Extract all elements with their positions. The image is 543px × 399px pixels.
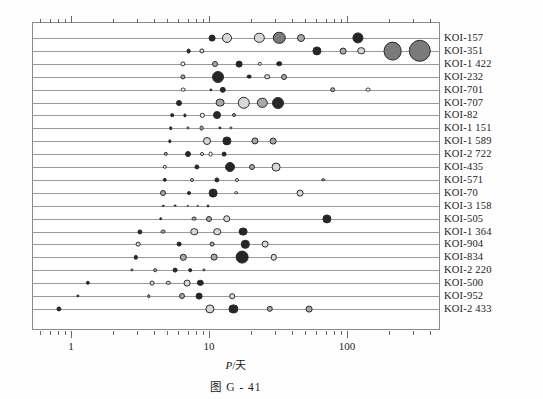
x-tick-minor-top [188, 19, 189, 23]
system-label: KOI-3 158 [444, 199, 492, 210]
planet-marker [229, 304, 238, 313]
planet-marker [238, 96, 250, 108]
x-tick-minor-top [50, 19, 51, 23]
system-row-line [33, 270, 439, 271]
planet-marker [164, 152, 168, 156]
system-label: KOI-70 [444, 186, 478, 197]
x-tick-minor-top [326, 19, 327, 23]
planet-marker [203, 137, 211, 145]
planet-marker [273, 32, 285, 44]
x-tick-label: 100 [339, 340, 356, 352]
plot-frame [32, 22, 440, 330]
planet-marker [177, 242, 182, 247]
system-label: KOI-707 [444, 96, 483, 107]
planet-marker [236, 60, 243, 67]
x-tick-minor [305, 331, 306, 335]
x-tick-minor-top [113, 19, 114, 23]
x-tick-major-top [209, 16, 210, 23]
planet-marker [185, 151, 191, 157]
system-label: KOI-1 589 [444, 135, 492, 146]
system-label: KOI-82 [444, 109, 478, 120]
planet-marker [221, 152, 226, 157]
planet-marker [181, 87, 186, 92]
planet-marker [86, 281, 90, 285]
system-label: KOI-500 [444, 277, 483, 288]
x-tick-major [347, 331, 348, 338]
x-tick-minor [58, 331, 59, 335]
x-tick-minor [178, 331, 179, 335]
system-label: KOI-505 [444, 212, 483, 223]
planet-marker [189, 268, 193, 272]
planet-marker [213, 111, 221, 119]
planet-marker [183, 280, 190, 287]
planet-marker [173, 268, 178, 273]
planet-marker [153, 268, 157, 272]
planet-marker [321, 178, 325, 182]
x-tick-minor [40, 331, 41, 335]
x-tick-minor-top [251, 19, 252, 23]
planet-marker [222, 33, 232, 43]
planet-marker [181, 74, 186, 79]
planet-marker [262, 241, 269, 248]
planet-marker [270, 138, 277, 145]
system-label: KOI-351 [444, 44, 483, 55]
planet-marker [161, 229, 166, 234]
system-label: KOI-904 [444, 238, 483, 249]
x-tick-minor [292, 331, 293, 335]
x-tick-minor-top [196, 19, 197, 23]
system-label: KOI-2 433 [444, 302, 492, 313]
planet-marker [163, 178, 167, 182]
planet-marker [210, 88, 213, 91]
x-tick-label: 10 [204, 340, 215, 352]
x-tick-minor-top [292, 19, 293, 23]
x-tick-minor [251, 331, 252, 335]
planet-marker [187, 191, 191, 195]
x-tick-minor-top [334, 19, 335, 23]
planet-marker [137, 229, 142, 234]
figure-container: KOI-157KOI-351KOI-1 422KOI-232KOI-701KOI… [0, 0, 543, 399]
planet-marker [235, 178, 239, 182]
system-row-line [33, 219, 439, 220]
planet-marker [218, 127, 221, 130]
planet-marker [241, 240, 249, 248]
planet-marker [135, 242, 140, 247]
planet-marker [190, 178, 194, 182]
x-tick-minor-top [167, 19, 168, 23]
system-label: KOI-232 [444, 70, 483, 81]
planet-marker [214, 177, 219, 182]
system-row-line [33, 283, 439, 284]
planet-marker [264, 74, 270, 80]
planet-marker [181, 61, 186, 66]
planet-marker [214, 228, 222, 236]
planet-marker [277, 61, 283, 67]
planet-marker [305, 305, 312, 312]
figure-caption: 图 G - 41 [0, 378, 472, 394]
x-tick-major [71, 331, 72, 338]
planet-marker [239, 227, 248, 236]
planet-marker [200, 113, 204, 117]
x-tick-minor-top [275, 19, 276, 23]
planet-marker [312, 46, 321, 55]
planet-marker [235, 251, 248, 264]
planet-marker [251, 138, 258, 145]
system-row-line [33, 296, 439, 297]
system-label: KOI-701 [444, 83, 483, 94]
planet-marker [222, 137, 231, 146]
x-tick-minor [113, 331, 114, 335]
x-tick-minor-top [137, 19, 138, 23]
planet-marker [150, 281, 155, 286]
planet-marker [200, 152, 204, 156]
x-tick-minor [167, 331, 168, 335]
planet-marker [383, 41, 402, 60]
x-tick-minor [65, 331, 66, 335]
planet-marker [192, 216, 197, 221]
system-row-line [33, 232, 439, 233]
planet-marker [229, 293, 235, 299]
x-tick-minor-top [413, 19, 414, 23]
planet-marker [254, 33, 264, 43]
planet-marker [272, 163, 281, 172]
planet-marker [258, 62, 262, 66]
x-tick-minor [196, 331, 197, 335]
x-tick-minor [326, 331, 327, 335]
planet-marker [272, 97, 284, 109]
